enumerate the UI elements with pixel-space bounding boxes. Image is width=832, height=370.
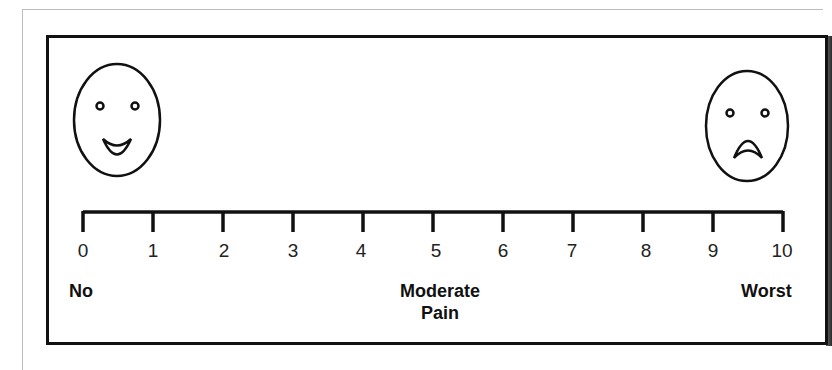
tick-label-4: 4 (356, 240, 367, 262)
sad-face-icon (706, 71, 788, 181)
tick-label-7: 7 (567, 240, 578, 262)
scale-axis (83, 211, 783, 232)
anchor-moderate-line2: Pain (380, 302, 500, 324)
tick-label-1: 1 (148, 240, 159, 262)
tick-label-8: 8 (641, 240, 652, 262)
tick-label-10: 10 (771, 240, 792, 262)
anchor-moderate-line1: Moderate (380, 280, 500, 302)
tick-label-6: 6 (498, 240, 509, 262)
tick-label-0: 0 (78, 240, 89, 262)
tick-label-3: 3 (288, 240, 299, 262)
anchor-worst-pain: Worst (741, 280, 792, 302)
anchor-no-pain: No (69, 280, 93, 302)
anchor-moderate-pain: Moderate Pain (380, 280, 500, 324)
tick-label-2: 2 (219, 240, 230, 262)
tick-label-5: 5 (431, 240, 442, 262)
happy-face-icon (74, 64, 160, 176)
tick-label-9: 9 (708, 240, 719, 262)
